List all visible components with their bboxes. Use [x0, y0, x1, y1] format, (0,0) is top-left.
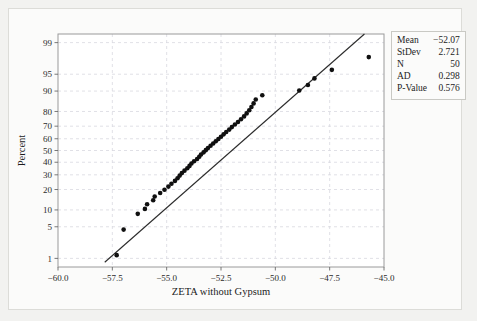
statistics-row: N50 — [397, 59, 460, 71]
data-point — [260, 93, 265, 98]
x-axis-tick-label: −52.5 — [211, 273, 232, 283]
x-axis-tick-label: −55.0 — [156, 273, 177, 283]
data-point — [158, 191, 163, 196]
x-axis-tick-label: −57.5 — [102, 273, 123, 283]
y-axis-tick-label: 99 — [43, 38, 53, 48]
data-point — [306, 83, 311, 88]
data-point — [152, 194, 157, 199]
data-point — [145, 202, 150, 207]
y-axis-tick-label: 50 — [43, 146, 53, 156]
statistics-value: 0.298 — [433, 71, 460, 83]
statistics-table: Mean−52.07StDev2.721N50AD0.298P-Value0.5… — [397, 35, 460, 95]
x-axis-tick-label: −45.0 — [374, 273, 395, 283]
statistics-legend-box: Mean−52.07StDev2.721N50AD0.298P-Value0.5… — [391, 31, 466, 100]
statistics-row: StDev2.721 — [397, 47, 460, 59]
y-axis-tick-label: 40 — [43, 157, 53, 167]
statistics-value: 50 — [433, 59, 460, 71]
data-point — [253, 97, 258, 102]
data-point — [297, 88, 302, 93]
data-point — [114, 253, 119, 258]
statistics-row: AD0.298 — [397, 71, 460, 83]
statistics-key: P-Value — [397, 83, 433, 95]
y-axis-tick-label: 1 — [48, 254, 53, 264]
y-axis-tick-label: 5 — [48, 222, 53, 232]
data-point — [312, 76, 317, 81]
statistics-key: StDev — [397, 47, 433, 59]
y-axis-tick-label: 80 — [43, 107, 53, 117]
statistics-value: 0.576 — [433, 83, 460, 95]
statistics-key: Mean — [397, 35, 433, 47]
data-point — [330, 68, 335, 73]
statistics-row: P-Value0.576 — [397, 83, 460, 95]
data-point — [121, 227, 126, 232]
probability-plot-figure: −60.0−57.5−55.0−52.5−50.0−47.5−45.015102… — [8, 8, 462, 310]
y-axis-tick-label: 90 — [43, 86, 53, 96]
x-axis-tick-label: −50.0 — [265, 273, 286, 283]
y-axis-tick-label: 70 — [43, 121, 53, 131]
y-axis-tick-label: 30 — [43, 170, 53, 180]
x-axis-tick-label: −47.5 — [319, 273, 340, 283]
x-axis-tick-label: −60.0 — [48, 273, 69, 283]
y-axis-title: Percent — [16, 135, 27, 167]
y-axis-tick-label: 20 — [43, 185, 53, 195]
data-point — [251, 101, 256, 106]
y-axis-tick-label: 60 — [43, 134, 53, 144]
data-point — [162, 187, 167, 192]
data-point — [143, 207, 148, 212]
y-axis-tick-label: 95 — [43, 69, 53, 79]
statistics-value: −52.07 — [433, 35, 460, 47]
y-axis-tick-label: 10 — [43, 205, 53, 215]
data-point — [366, 55, 371, 60]
statistics-key: N — [397, 59, 433, 71]
statistics-value: 2.721 — [433, 47, 460, 59]
data-point — [135, 212, 140, 217]
x-axis-title: ZETA without Gypsum — [172, 286, 270, 297]
statistics-key: AD — [397, 71, 433, 83]
statistics-row: Mean−52.07 — [397, 35, 460, 47]
